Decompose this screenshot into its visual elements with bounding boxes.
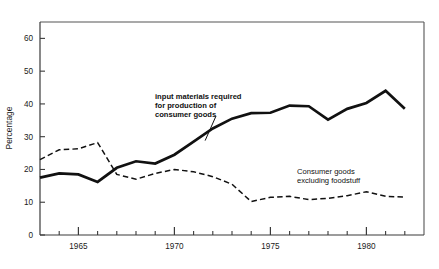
annotation-input-materials-line-1: input materials required: [155, 92, 242, 101]
y-axis-tick-label: 0: [28, 231, 33, 240]
annotation-input-materials-line-3: consumer goods: [155, 110, 216, 119]
annotation-consumer-goods-line-2: excluding foodstuff: [297, 176, 361, 185]
y-axis-title: Percentage: [4, 106, 14, 149]
x-axis-tick-label: 1970: [165, 242, 184, 251]
x-axis-tick-label: 1965: [69, 242, 88, 251]
line-chart: 0102030405060 1965197019751980 Percentag…: [0, 0, 439, 269]
x-axis-tick-label: 1975: [261, 242, 280, 251]
y-axis-tick-label: 20: [24, 165, 34, 174]
y-axis-tick-label: 10: [24, 198, 34, 207]
y-axis-tick-label: 30: [24, 133, 34, 142]
annotation-input-materials-line-2: for production of: [155, 101, 217, 110]
annotation-consumer-goods-line-1: Consumer goods: [297, 167, 355, 176]
x-axis-tick-label: 1980: [357, 242, 376, 251]
plot-frame: [40, 22, 424, 235]
annotation-input-materials: input materials required for production …: [155, 92, 242, 119]
y-axis: 0102030405060: [24, 34, 45, 240]
y-axis-tick-label: 60: [24, 34, 34, 43]
y-axis-tick-label: 40: [24, 100, 34, 109]
x-axis: 1965197019751980: [59, 227, 405, 251]
y-axis-tick-label: 50: [24, 67, 34, 76]
chart-container: 0102030405060 1965197019751980 Percentag…: [0, 0, 439, 269]
annotation-consumer-goods: Consumer goods excluding foodstuff: [297, 167, 361, 185]
